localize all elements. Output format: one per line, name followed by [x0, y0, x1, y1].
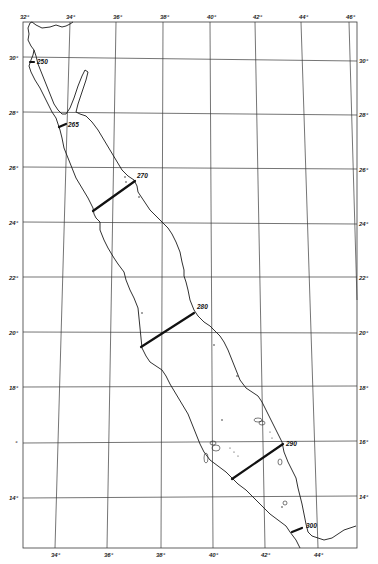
- latitude-label: 30°: [359, 58, 369, 64]
- longitude-label: 44°: [298, 14, 309, 20]
- transect-265: [59, 124, 66, 127]
- transect-270: [93, 181, 135, 211]
- transect-label: 265: [67, 121, 79, 128]
- latitude-label: 18°: [359, 385, 369, 391]
- transects: [30, 62, 302, 532]
- bottom-longitude-labels: 34° 36° 38° 40° 42° 44°: [51, 552, 324, 558]
- longitude-label: 40°: [206, 14, 217, 20]
- latitude-label: 24°: [8, 220, 19, 226]
- latitude-label: 26°: [358, 167, 369, 173]
- transect-label: 250: [36, 58, 48, 65]
- transect-label: 280: [196, 303, 208, 310]
- right-latitude-labels: 30° 28° 26° 24° 22° 20° 18° 16° 14°: [358, 58, 369, 500]
- latitude-label: 16°: [359, 439, 369, 445]
- latitude-label: 26°: [8, 165, 19, 171]
- longitude-label: 38°: [160, 14, 170, 20]
- red-sea-map: 250 265 270 280 290 300 32° 34° 36° 38° …: [0, 0, 378, 564]
- longitude-grid: [55, 22, 357, 548]
- transect-label: 300: [306, 522, 317, 529]
- transect-label: 290: [285, 440, 297, 447]
- top-longitude-labels: 32° 34° 36° 38° 40° 42° 44° 46°: [20, 14, 356, 20]
- longitude-label: 40°: [208, 552, 219, 558]
- latitude-label: 22°: [358, 275, 369, 281]
- longitude-label: 34°: [51, 552, 61, 558]
- transect-label: 270: [136, 172, 148, 179]
- latitude-label: 20°: [8, 330, 19, 336]
- longitude-label: 38°: [156, 552, 166, 558]
- latitude-label: 22°: [8, 275, 19, 281]
- transect-labels: 250 265 270 280 290 300: [36, 58, 317, 529]
- left-latitude-labels: 30° 28° 26° 24° 22° 20° 18° ° 14°: [8, 55, 19, 501]
- transect-300: [292, 528, 302, 532]
- longitude-label: 44°: [313, 552, 324, 558]
- latitude-label: 30°: [9, 55, 19, 61]
- transect-290: [232, 444, 283, 479]
- latitude-label: 28°: [358, 112, 369, 118]
- latitude-label: 24°: [358, 221, 369, 227]
- longitude-label: 46°: [345, 14, 356, 20]
- latitude-label: 20°: [358, 330, 369, 336]
- longitude-label: 42°: [252, 14, 263, 20]
- transect-280: [141, 313, 194, 347]
- longitude-label: 34°: [66, 14, 76, 20]
- latitude-label: 18°: [9, 385, 19, 391]
- longitude-label: 32°: [20, 14, 30, 20]
- longitude-label: 36°: [113, 14, 123, 20]
- longitude-label: 42°: [260, 552, 271, 558]
- coastline: [28, 22, 356, 548]
- latitude-label: °: [15, 440, 18, 446]
- longitude-label: 36°: [104, 552, 114, 558]
- latitude-label: 14°: [359, 494, 369, 500]
- latitude-label: 14°: [9, 495, 19, 501]
- latitude-label: 28°: [8, 110, 19, 116]
